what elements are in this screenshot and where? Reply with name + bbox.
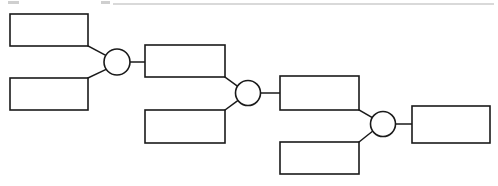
gate-node-2[interactable] [236, 81, 261, 106]
box-outline[interactable] [412, 106, 490, 143]
node-box-6[interactable] [280, 142, 359, 174]
node-box-5[interactable] [280, 76, 359, 110]
circle-gate-icon[interactable] [236, 81, 261, 106]
node-box-3[interactable] [145, 45, 225, 77]
box-outline[interactable] [10, 14, 88, 46]
circle-gate-icon[interactable] [371, 112, 396, 137]
connector-box2-gate1 [88, 69, 107, 78]
circle-gate-icon[interactable] [104, 49, 130, 75]
gate-node-3[interactable] [371, 112, 396, 137]
gate-node-1[interactable] [104, 49, 130, 75]
node-box-7[interactable] [412, 106, 490, 143]
diagram-canvas [0, 0, 498, 186]
node-box-1[interactable] [10, 14, 88, 46]
connector-box4-gate2 [225, 100, 239, 110]
box-outline[interactable] [280, 142, 359, 174]
connector-box3-gate2 [225, 77, 239, 87]
node-box-4[interactable] [145, 110, 225, 143]
box-outline[interactable] [145, 110, 225, 143]
scan-speck [8, 1, 19, 4]
box-outline[interactable] [145, 45, 225, 77]
node-box-2[interactable] [10, 78, 88, 110]
connector-box5-gate3 [359, 110, 373, 118]
connector-box1-gate1 [88, 46, 107, 56]
scan-speck [101, 1, 110, 4]
scan-artifacts [8, 1, 494, 4]
box-outline[interactable] [10, 78, 88, 110]
box-outline[interactable] [280, 76, 359, 110]
connector-box6-gate3 [359, 131, 374, 143]
